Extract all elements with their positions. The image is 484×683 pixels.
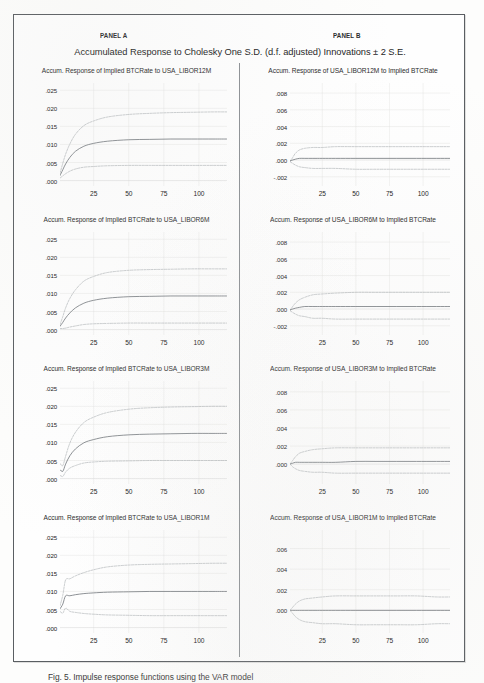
plot-area: -.002.000.002.004.006.008255075100 [290, 83, 450, 186]
plot-wrap: .000.005.010.015.020.025255075100 [14, 377, 239, 510]
y-axis-tick-label: .000 [276, 157, 287, 164]
x-axis-tick-label: 100 [418, 339, 429, 346]
x-axis-tick-label: 50 [125, 488, 132, 495]
x-axis-tick-label: 25 [319, 339, 326, 346]
irf-chart-panel-a: Accum. Response of Implied BTCRate to US… [14, 212, 239, 361]
plot-wrap: .000.002.004.006255075100 [240, 526, 466, 659]
y-axis-tick-label: .000 [46, 475, 57, 482]
y-axis-tick-label: .004 [276, 424, 287, 431]
plot-wrap: .000.002.004.006.008255075100 [240, 377, 466, 510]
chart-title: Accum. Response of Implied BTCRate to US… [14, 67, 239, 75]
x-axis-tick-label: 100 [194, 339, 205, 346]
y-axis-tick-label: .008 [276, 90, 287, 97]
y-axis-tick-label: .025 [46, 534, 57, 541]
lower-confidence-line [290, 162, 450, 170]
lower-confidence-line [60, 460, 227, 476]
plot-wrap: .000.005.010.015.020.025255075100 [14, 526, 239, 659]
y-axis-tick-label: .020 [46, 254, 57, 261]
y-axis-tick-label: .002 [276, 586, 287, 593]
figure-frame: PANEL A PANEL B Accumulated Response to … [13, 14, 465, 662]
response-line [60, 296, 227, 326]
chart-row: Accum. Response of Implied BTCRate to US… [14, 510, 466, 659]
y-axis-tick-label: .000 [46, 177, 57, 184]
x-axis-tick-label: 75 [386, 637, 393, 644]
upper-confidence-line [60, 112, 227, 173]
plot-canvas [290, 232, 450, 335]
y-axis-tick-label: .000 [46, 326, 57, 333]
y-axis-tick-label: .002 [276, 443, 287, 450]
y-axis-tick-label: .006 [276, 545, 287, 552]
upper-confidence-line [290, 147, 450, 162]
figure-title: Accumulated Response to Cholesky One S.D… [14, 47, 466, 57]
x-axis-tick-label: 100 [194, 637, 205, 644]
plot-wrap: -.002.000.002.004.006.008255075100 [240, 228, 466, 361]
upper-confidence-line [60, 563, 227, 606]
plot-area: .000.002.004.006.008255075100 [290, 381, 450, 484]
x-axis-tick-label: 75 [160, 488, 167, 495]
y-axis-tick-label: .004 [276, 123, 287, 130]
x-axis-tick-label: 100 [418, 488, 429, 495]
plot-canvas [60, 530, 227, 633]
x-axis-tick-label: 25 [90, 488, 97, 495]
y-axis-tick-label: .025 [46, 236, 57, 243]
x-axis-tick-label: 75 [386, 339, 393, 346]
y-axis-tick-label: -.002 [274, 322, 287, 329]
chart-row: Accum. Response of Implied BTCRate to US… [14, 63, 466, 212]
y-axis-tick-label: .006 [276, 106, 287, 113]
plot-canvas [60, 232, 227, 335]
chart-title: Accum. Response of Implied BTCRate to US… [14, 514, 239, 522]
x-axis-tick-label: 100 [194, 488, 205, 495]
plot-area: .000.005.010.015.020.025255075100 [60, 83, 227, 186]
chart-title: Accum. Response of USA_LIBOR3M to Implie… [240, 365, 466, 373]
y-axis-tick-label: .010 [46, 141, 57, 148]
response-line [290, 461, 450, 464]
plot-canvas [290, 530, 450, 633]
y-axis-tick-label: .020 [46, 403, 57, 410]
response-line [290, 306, 450, 309]
y-axis-tick-label: .002 [276, 289, 287, 296]
chart-title: Accum. Response of USA_LIBOR1M to Implie… [240, 514, 466, 522]
plot-area: .000.005.010.015.020.025255075100 [60, 232, 227, 335]
response-line [290, 158, 450, 161]
x-axis-tick-label: 75 [386, 190, 393, 197]
x-axis-tick-label: 25 [319, 190, 326, 197]
y-axis-tick-label: .025 [46, 87, 57, 94]
plot-area: -.002.000.002.004.006.008255075100 [290, 232, 450, 335]
y-axis-tick-label: .004 [276, 272, 287, 279]
plot-canvas [60, 381, 227, 484]
lower-confidence-line [60, 165, 227, 178]
panel-labels: PANEL A PANEL B [14, 31, 466, 43]
plot-canvas [290, 83, 450, 186]
y-axis-tick-label: .010 [46, 588, 57, 595]
irf-chart-panel-b: Accum. Response of USA_LIBOR1M to Implie… [240, 510, 466, 659]
plot-area: .000.002.004.006255075100 [290, 530, 450, 633]
y-axis-tick-label: .000 [276, 306, 287, 313]
plot-area: .000.005.010.015.020.025255075100 [60, 530, 227, 633]
x-axis-tick-label: 25 [90, 637, 97, 644]
lower-confidence-line [290, 610, 450, 624]
x-axis-tick-label: 50 [125, 637, 132, 644]
lower-confidence-line [290, 311, 450, 319]
y-axis-tick-label: .000 [276, 461, 287, 468]
y-axis-tick-label: .008 [276, 239, 287, 246]
irf-chart-panel-b: Accum. Response of USA_LIBOR12M to Impli… [240, 63, 466, 212]
chart-row: Accum. Response of Implied BTCRate to US… [14, 212, 466, 361]
x-axis-tick-label: 25 [90, 339, 97, 346]
x-axis-tick-label: 75 [160, 190, 167, 197]
x-axis-tick-label: 50 [352, 637, 359, 644]
y-axis-tick-label: .015 [46, 272, 57, 279]
y-axis-tick-label: .005 [46, 159, 57, 166]
plot-area: .000.005.010.015.020.025255075100 [60, 381, 227, 484]
chart-title: Accum. Response of USA_LIBOR6M to Implie… [240, 216, 466, 224]
upper-confidence-line [290, 596, 450, 610]
scanned-page: PANEL A PANEL B Accumulated Response to … [0, 0, 484, 683]
lower-confidence-line [290, 464, 450, 473]
panel-b-label: PANEL B [333, 30, 361, 39]
irf-chart-panel-b: Accum. Response of USA_LIBOR3M to Implie… [240, 361, 466, 510]
y-axis-tick-label: .010 [46, 290, 57, 297]
y-axis-tick-label: -.002 [274, 173, 287, 180]
upper-confidence-line [60, 406, 227, 466]
y-axis-tick-label: .000 [46, 624, 57, 631]
y-axis-tick-label: .020 [46, 105, 57, 112]
y-axis-tick-label: .005 [46, 308, 57, 315]
